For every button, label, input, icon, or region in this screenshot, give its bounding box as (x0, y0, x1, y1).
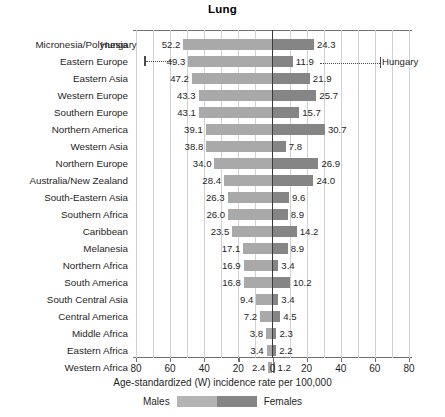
value-label-males: 26.3 (136, 191, 225, 204)
bar-females (273, 209, 288, 220)
value-label-males: 9.4 (136, 293, 253, 306)
value-label-males: 39.1 (136, 123, 203, 136)
chart-root: Lung Micronesia/PolynesiaEastern EuropeE… (0, 0, 445, 417)
value-label-females: 10.2 (293, 276, 312, 289)
x-tick-mark (204, 358, 205, 362)
x-axis-ticks: 80604020020406080 (136, 358, 409, 378)
bar-males (199, 90, 273, 101)
category-label: Australia/New Zealand (0, 174, 128, 187)
annotation-tick-right (380, 57, 381, 68)
bar-males (206, 124, 273, 135)
bar-females (273, 158, 319, 169)
x-tick-label: 60 (165, 363, 176, 374)
value-label-females: 7.8 (289, 140, 302, 153)
value-label-males: 16.9 (136, 259, 241, 272)
category-label: Northern Africa (0, 259, 128, 272)
x-tick-label: 0 (270, 363, 276, 374)
value-label-females: 15.7 (302, 106, 321, 119)
category-label: Central America (0, 310, 128, 323)
category-label: Middle Africa (0, 327, 128, 340)
x-tick-label: 40 (335, 363, 346, 374)
category-label: Eastern Africa (0, 344, 128, 357)
category-label: Western Africa (0, 361, 128, 374)
bar-males (192, 73, 273, 84)
x-tick-mark (238, 358, 239, 362)
legend-label-males: Males (136, 396, 177, 407)
x-tick-label: 20 (301, 363, 312, 374)
value-label-males: 52.2 (136, 38, 180, 51)
value-label-males: 16.8 (136, 276, 241, 289)
value-label-females: 4.5 (283, 310, 296, 323)
bar-males (199, 107, 273, 118)
category-label: South America (0, 276, 128, 289)
x-tick-label: 40 (199, 363, 210, 374)
bar-males (244, 260, 273, 271)
bar-females (273, 73, 310, 84)
bar-males (260, 311, 272, 322)
zero-axis-line (272, 30, 273, 358)
chart-title: Lung (0, 3, 445, 15)
value-label-females: 3.4 (281, 259, 294, 272)
value-label-males: 3.8 (136, 327, 263, 340)
bar-males (228, 192, 273, 203)
bar-females (273, 175, 314, 186)
x-tick-mark (170, 358, 171, 362)
category-label: Western Europe (0, 89, 128, 102)
bar-females (273, 124, 325, 135)
bar-males (232, 226, 272, 237)
value-label-males: 47.2 (136, 72, 189, 85)
x-tick-label: 80 (403, 363, 414, 374)
annotation-leader-right (320, 63, 380, 64)
category-label: Northern Europe (0, 157, 128, 170)
value-label-females: 2.3 (279, 327, 292, 340)
value-label-females: 14.2 (300, 225, 319, 238)
value-label-males: 38.8 (136, 140, 203, 153)
category-label: Melanesia (0, 242, 128, 255)
x-tick-mark (375, 358, 376, 362)
annotation-label-hungary-left: Hungary (100, 38, 136, 51)
category-label: Eastern Asia (0, 72, 128, 85)
value-label-females: 11.9 (296, 55, 314, 68)
value-label-males: 23.5 (136, 225, 229, 238)
x-tick-label: 60 (369, 363, 380, 374)
bar-males (183, 39, 272, 50)
bar-females (273, 260, 279, 271)
category-label: South Central Asia (0, 293, 128, 306)
bar-females (273, 56, 293, 67)
category-label: Southern Europe (0, 106, 128, 119)
category-label: South-Eastern Asia (0, 191, 128, 204)
x-tick-label: 80 (130, 363, 141, 374)
value-label-females: 24.3 (317, 38, 336, 51)
category-label: Eastern Europe (0, 55, 128, 68)
category-label: Southern Africa (0, 208, 128, 221)
bar-males (188, 56, 272, 67)
value-label-males: 3.4 (136, 344, 264, 357)
value-label-females: 25.7 (319, 89, 338, 102)
x-axis-title: Age-standardized (W) incidence rate per … (0, 377, 445, 388)
bar-males (206, 141, 272, 152)
value-label-females: 8.9 (291, 242, 304, 255)
annotation-tick-left (144, 56, 145, 66)
legend-label-females: Females (257, 396, 309, 407)
x-tick-mark (273, 358, 274, 362)
annotation-leader-left (146, 61, 172, 62)
value-label-females: 3.4 (281, 293, 294, 306)
legend-swatch-females (217, 396, 257, 407)
value-label-females: 8.9 (291, 208, 304, 221)
bar-females (273, 192, 289, 203)
value-label-females: 30.7 (328, 123, 347, 136)
annotation-label-hungary-right: Hungary (382, 55, 418, 68)
plot-area: 52.224.349.311.947.221.943.325.743.115.7… (136, 30, 409, 358)
x-tick-mark (307, 358, 308, 362)
bar-males (228, 209, 272, 220)
value-label-females: 21.9 (313, 72, 332, 85)
value-label-males: 17.1 (136, 242, 240, 255)
value-label-males: 34.0 (136, 157, 211, 170)
value-label-males: 7.2 (136, 310, 257, 323)
bar-females (273, 107, 300, 118)
bar-females (273, 39, 314, 50)
legend-swatch-males (177, 396, 217, 407)
category-label: Northern America (0, 123, 128, 136)
bar-females (273, 294, 279, 305)
value-label-females: 9.6 (292, 191, 305, 204)
